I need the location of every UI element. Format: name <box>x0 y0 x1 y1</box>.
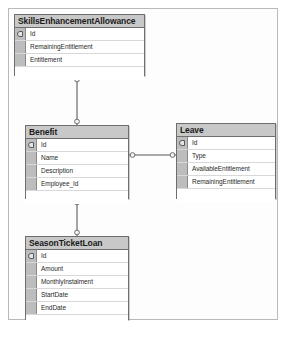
attribute-name-placeholder <box>188 189 275 202</box>
attribute-marker-icon <box>26 165 37 177</box>
attribute-row[interactable]: Entitlement <box>15 54 144 67</box>
attribute-row[interactable]: Id <box>26 139 128 152</box>
entity-attributes-season_ticket_loan: IdAmountMonthlyInstalmentStartDateEndDat… <box>26 250 128 328</box>
attribute-name: StartDate <box>37 289 128 301</box>
attribute-row[interactable]: StartDate <box>26 289 128 302</box>
attribute-row[interactable]: RemainingEntitlement <box>177 176 275 189</box>
attribute-marker-icon <box>15 41 26 53</box>
primary-key-icon <box>15 28 26 40</box>
attribute-row[interactable]: Type <box>177 150 275 163</box>
attribute-row[interactable]: MonthlyInstalment <box>26 276 128 289</box>
attribute-name: Amount <box>37 263 128 275</box>
attribute-marker-placeholder-icon <box>26 315 37 328</box>
attribute-row[interactable]: Id <box>26 250 128 263</box>
attribute-row[interactable]: RemainingEntitlement <box>15 41 144 54</box>
primary-key-icon <box>26 250 37 262</box>
primary-key-icon <box>26 139 37 151</box>
attribute-row[interactable]: Amount <box>26 263 128 276</box>
attribute-marker-placeholder-icon <box>15 67 26 80</box>
attribute-row[interactable]: Id <box>15 28 144 41</box>
attribute-marker-icon <box>26 302 37 314</box>
attribute-marker-icon <box>26 289 37 301</box>
entity-empty-row <box>26 315 128 328</box>
attribute-name: RemainingEntitlement <box>188 176 275 188</box>
attribute-name: Id <box>37 250 128 262</box>
attribute-marker-icon <box>15 54 26 66</box>
attribute-name: Type <box>188 150 275 162</box>
attribute-name: Id <box>26 28 144 40</box>
entity-empty-row <box>15 67 144 80</box>
attribute-row[interactable]: EndDate <box>26 302 128 315</box>
attribute-row[interactable]: Employee_Id <box>26 178 128 191</box>
attribute-marker-icon <box>26 263 37 275</box>
attribute-name: Id <box>37 139 128 151</box>
attribute-marker-icon <box>26 178 37 190</box>
primary-key-icon <box>177 137 188 149</box>
entity-title-season_ticket_loan: SeasonTicketLoan <box>26 237 128 250</box>
entity-title-benefit: Benefit <box>26 126 128 139</box>
entity-title-skills_enhancement_allowance: SkillsEnhancementAllowance <box>15 15 144 28</box>
entity-attributes-leave: IdTypeAvailableEntitlementRemainingEntit… <box>177 137 275 202</box>
entity-benefit[interactable]: BenefitIdNameDescriptionEmployee_Id <box>25 125 129 199</box>
attribute-marker-icon <box>177 150 188 162</box>
entity-skills_enhancement_allowance[interactable]: SkillsEnhancementAllowanceIdRemainingEnt… <box>14 14 145 76</box>
entity-empty-row <box>177 189 275 202</box>
attribute-name: Description <box>37 165 128 177</box>
attribute-name: Employee_Id <box>37 178 128 190</box>
attribute-marker-placeholder-icon <box>26 191 37 204</box>
attribute-row[interactable]: AvailableEntitlement <box>177 163 275 176</box>
attribute-row[interactable]: Id <box>177 137 275 150</box>
attribute-marker-icon <box>177 163 188 175</box>
attribute-marker-icon <box>177 176 188 188</box>
attribute-name: EndDate <box>37 302 128 314</box>
attribute-name: AvailableEntitlement <box>188 163 275 175</box>
attribute-row[interactable]: Description <box>26 165 128 178</box>
attribute-name: Name <box>37 152 128 164</box>
attribute-marker-placeholder-icon <box>177 189 188 202</box>
entity-attributes-benefit: IdNameDescriptionEmployee_Id <box>26 139 128 204</box>
attribute-name-placeholder <box>37 315 128 328</box>
attribute-marker-icon <box>26 152 37 164</box>
attribute-name: Id <box>188 137 275 149</box>
attribute-row[interactable]: Name <box>26 152 128 165</box>
entity-empty-row <box>26 191 128 204</box>
attribute-name: MonthlyInstalment <box>37 276 128 288</box>
entity-season_ticket_loan[interactable]: SeasonTicketLoanIdAmountMonthlyInstalmen… <box>25 236 129 320</box>
attribute-name-placeholder <box>37 191 128 204</box>
attribute-marker-icon <box>26 276 37 288</box>
attribute-name-placeholder <box>26 67 144 80</box>
attribute-name: Entitlement <box>26 54 144 66</box>
attribute-name: RemainingEntitlement <box>26 41 144 53</box>
entity-attributes-skills_enhancement_allowance: IdRemainingEntitlementEntitlement <box>15 28 144 80</box>
entity-leave[interactable]: LeaveIdTypeAvailableEntitlementRemaining… <box>176 123 276 199</box>
entity-title-leave: Leave <box>177 124 275 137</box>
